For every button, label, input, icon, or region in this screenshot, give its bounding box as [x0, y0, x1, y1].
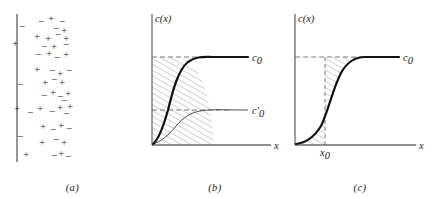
- x-axis-label: x: [418, 140, 424, 151]
- curve-label-c0: c0: [403, 52, 414, 66]
- panel-c-canvas: c(x) x c0 x0: [283, 0, 437, 199]
- panel-c-caption: (c): [283, 182, 437, 193]
- panel-a-caption: (a): [0, 182, 145, 193]
- negative-charge: −: [65, 150, 71, 162]
- negative-charge: −: [63, 107, 69, 119]
- positive-charge: +: [58, 119, 64, 131]
- panel-b: c(x) x c0 c′0 (b): [140, 0, 290, 199]
- negative-charge: −: [27, 106, 33, 118]
- positive-charge: +: [50, 86, 56, 98]
- curve-label-c0-prime: c′0: [252, 105, 265, 119]
- positive-charge: +: [46, 47, 52, 59]
- negative-charge: −: [19, 20, 25, 32]
- panel-a-canvas: −−+−−+++−++−+−−+−++−+−−+−+−+−+−+−+−++−+−…: [0, 0, 145, 199]
- positive-charge: +: [34, 63, 40, 75]
- negative-charge: −: [51, 149, 57, 161]
- negative-charge: −: [41, 89, 47, 101]
- positive-charge: +: [34, 30, 40, 42]
- positive-charge: +: [42, 76, 48, 88]
- positive-charge: +: [14, 102, 20, 114]
- curve-c0: [296, 57, 399, 144]
- negative-charge: −: [35, 48, 41, 60]
- y-axis-label: c(x): [298, 13, 315, 25]
- negative-charge: −: [17, 78, 23, 90]
- positive-charge: +: [58, 147, 64, 159]
- figure-double-layer-diagram: −−+−−+++−++−+−−+−++−+−−+−+−+−+−+−+−++−+−…: [0, 0, 437, 199]
- panel-b-caption: (b): [140, 182, 290, 193]
- x-axis-label: x: [273, 140, 279, 151]
- charge-group: −−+−−+++−++−+−−+−++−+−−+−+−+−+−+−+−++−+−…: [12, 12, 73, 162]
- positive-charge: +: [39, 136, 45, 148]
- positive-charge: +: [63, 48, 69, 60]
- hatched-region: [293, 55, 363, 147]
- negative-charge: −: [55, 28, 61, 40]
- y-axis-label: c(x): [155, 13, 172, 25]
- negative-charge: −: [54, 51, 60, 63]
- negative-charge: −: [66, 122, 72, 134]
- panel-a: −−+−−+++−++−+−−+−++−+−−+−+−+−+−+−+−++−+−…: [0, 0, 145, 199]
- negative-charge: −: [17, 130, 23, 142]
- x-tick-label-x0: x0: [319, 147, 331, 161]
- negative-charge: −: [51, 73, 57, 85]
- panel-c: c(x) x c0 x0 (c): [283, 0, 437, 199]
- positive-charge: +: [37, 102, 43, 114]
- negative-charge: −: [38, 15, 44, 27]
- positive-charge: +: [40, 120, 46, 132]
- panel-b-canvas: c(x) x c0 c′0: [140, 0, 290, 199]
- negative-charge: −: [53, 133, 59, 145]
- positive-charge: +: [12, 37, 18, 49]
- positive-charge: +: [23, 148, 29, 160]
- negative-charge: −: [49, 105, 55, 117]
- negative-charge: −: [66, 64, 72, 76]
- curve-label-c0: c0: [252, 52, 263, 66]
